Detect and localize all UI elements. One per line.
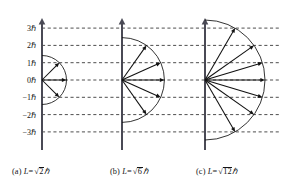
caption-a-radicand: 2 <box>39 167 44 176</box>
panel-caption-b: (b) L=√6ℏ <box>110 166 148 176</box>
caption-c-radical: √12 <box>217 167 232 176</box>
caption-b-prefix: (b) <box>110 167 120 176</box>
caption-a-radical: √2 <box>33 167 44 176</box>
caption-b-radicand: 6 <box>137 167 142 176</box>
tick-label-−1ℏ: −1ℏ <box>22 93 36 102</box>
tick-label-−2ℏ: −2ℏ <box>22 111 36 120</box>
caption-b-unit: ℏ <box>143 167 148 176</box>
caption-c-prefix: (c) <box>196 167 206 176</box>
caption-b-radical: √6 <box>132 167 143 176</box>
caption-a-prefix: (a) <box>12 167 22 176</box>
tick-label-−3ℏ: −3ℏ <box>22 128 36 137</box>
caption-a-unit: ℏ <box>44 167 49 176</box>
caption-c-unit: ℏ <box>232 167 237 176</box>
vector-model-figure: 3ℏ2ℏ1ℏ0ℏ−1ℏ−2ℏ−3ℏ <box>0 0 282 189</box>
tick-label-2ℏ: 2ℏ <box>27 41 36 50</box>
panel-caption-a: (a) L=√2ℏ <box>12 166 49 176</box>
tick-label-3ℏ: 3ℏ <box>27 24 36 33</box>
caption-c-radicand: 12 <box>223 167 233 176</box>
tick-label-1ℏ: 1ℏ <box>27 59 36 68</box>
tick-label-0ℏ: 0ℏ <box>27 76 36 85</box>
panel-caption-c: (c) L=√12ℏ <box>196 166 237 176</box>
